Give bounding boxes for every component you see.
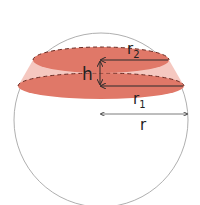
sphere-segment-diagram: r2 r1 h r	[0, 0, 200, 205]
diagram-canvas: r2 r1 h r	[0, 0, 200, 205]
label-h: h	[82, 64, 93, 84]
label-r: r	[140, 116, 147, 134]
label-r2: r2	[127, 40, 140, 60]
